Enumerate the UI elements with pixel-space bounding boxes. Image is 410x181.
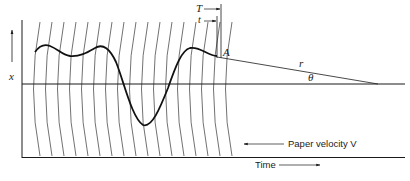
x-axis-label: x — [9, 71, 14, 82]
paper-velocity-label: Paper velocity V — [288, 139, 357, 149]
A-label: A — [223, 47, 230, 58]
diagram-canvas — [0, 0, 410, 181]
T-label: T — [196, 3, 202, 14]
r-label: r — [299, 58, 303, 69]
theta-label: θ — [308, 72, 313, 83]
radius-line — [217, 57, 378, 84]
pen-arcs — [34, 22, 233, 156]
time-label: Time — [255, 160, 276, 170]
t-label: t — [198, 15, 201, 25]
